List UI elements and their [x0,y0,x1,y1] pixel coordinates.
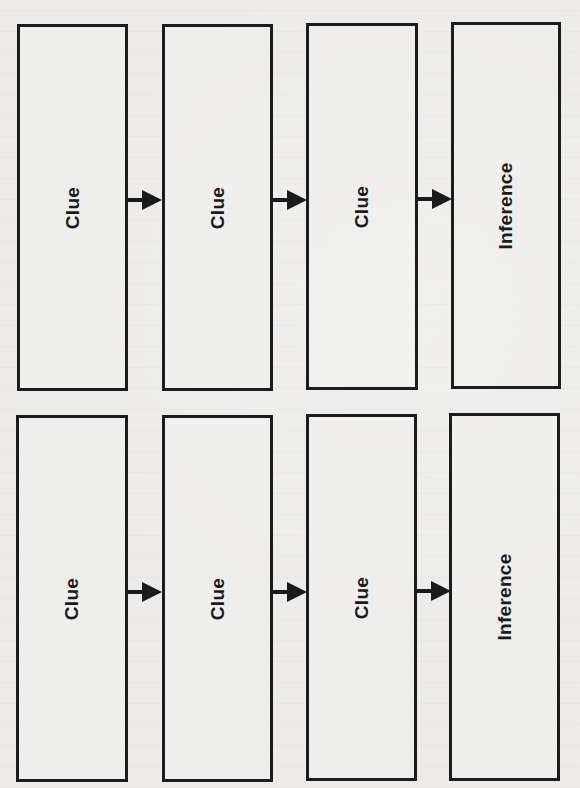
box-label: Inference [495,162,517,249]
box-label: Clue [207,186,229,228]
arrow-right-icon [128,582,162,602]
arrow-right-icon [417,581,451,601]
box-label: Clue [351,185,373,227]
box-label: Clue [62,186,84,228]
clue-box-3[interactable]: Clue [306,414,417,781]
clue-box-2[interactable]: Clue [162,24,273,391]
box-label: Clue [207,577,229,619]
box-label: Inference [494,553,516,640]
clue-box-2[interactable]: Clue [162,415,273,782]
arrow-right-icon [128,190,162,210]
arrow-right-icon [273,582,307,602]
clue-box-3[interactable]: Clue [306,23,418,390]
arrow-right-icon [418,189,452,209]
clue-box-1[interactable]: Clue [17,24,128,391]
box-label: Clue [61,577,83,619]
box-label: Clue [351,576,373,618]
arrow-right-icon [273,190,307,210]
inference-box[interactable]: Inference [449,413,560,781]
inference-box[interactable]: Inference [451,22,561,389]
clue-box-1[interactable]: Clue [16,415,128,782]
